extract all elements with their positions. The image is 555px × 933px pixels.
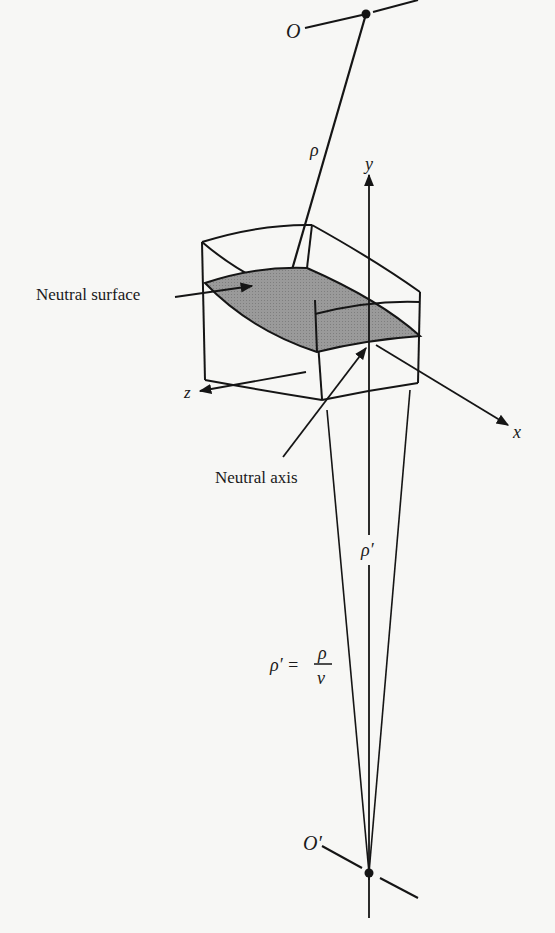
- equation-numerator: ρ: [317, 643, 327, 663]
- label-rho: ρ: [309, 140, 319, 160]
- center-of-curvature-top: O: [286, 0, 418, 42]
- label-neutral-axis: Neutral axis: [215, 468, 298, 487]
- neutral-surface: [205, 268, 420, 352]
- label-O: O: [286, 20, 300, 42]
- x-axis: x: [376, 345, 521, 442]
- y-axis: y: [363, 154, 373, 880]
- rho-radius: ρ: [287, 14, 366, 287]
- label-z: z: [183, 383, 191, 402]
- label-O-prime: O′: [303, 832, 322, 854]
- equation-rho-prime: ρ′ = ρ ν: [269, 643, 332, 688]
- label-rho-prime: ρ′: [360, 540, 375, 560]
- label-y: y: [363, 154, 373, 174]
- neutral-surface-diagram: O ρ y x z: [0, 0, 555, 933]
- neutral-axis-callout: Neutral axis: [215, 348, 366, 487]
- label-x: x: [512, 422, 521, 442]
- label-neutral-surface: Neutral surface: [36, 285, 140, 304]
- center-of-curvature-bottom: O′: [303, 832, 418, 918]
- equation-denominator: ν: [317, 668, 325, 688]
- equation-lhs: ρ′ =: [269, 655, 299, 675]
